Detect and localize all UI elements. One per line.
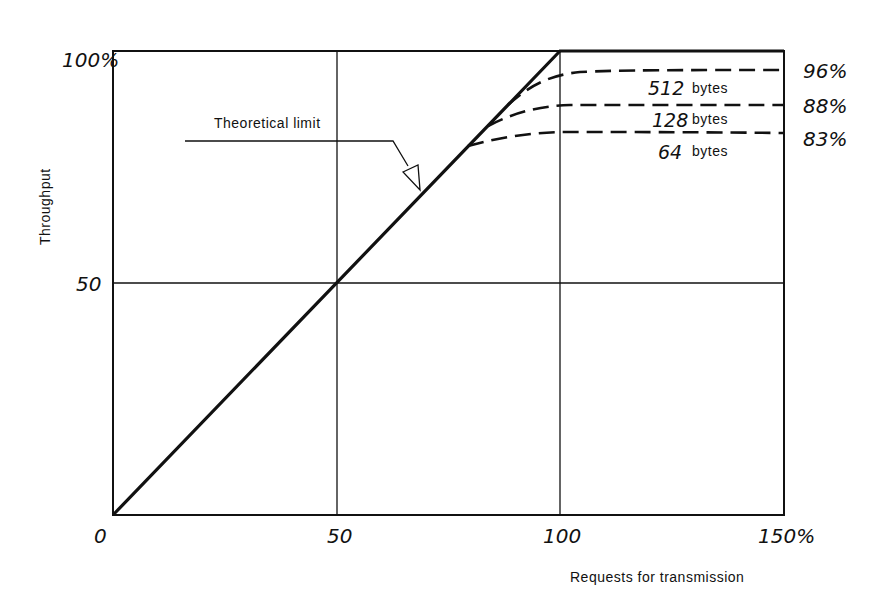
y-tick-50: 50 [76, 272, 101, 296]
series-512-bytes [508, 70, 784, 105]
x-axis-label: Requests for transmission [570, 569, 744, 585]
annotation-theoretical-limit: Theoretical limit [214, 115, 321, 131]
series-64-bytes [468, 132, 784, 146]
x-tick-150: 150% [758, 524, 815, 548]
x-tick-100: 100 [543, 524, 581, 548]
label-512-num: 512 [648, 77, 684, 99]
label-64-bytes: bytes [692, 143, 728, 159]
annotation-arrow-icon [403, 165, 420, 190]
y-tick-100: 100% [62, 48, 119, 72]
label-512-bytes: bytes [692, 80, 728, 96]
label-128-bytes: bytes [692, 111, 728, 127]
label-64-num: 64 [658, 141, 682, 163]
y-axis-label: Throughput [37, 168, 53, 245]
throughput-chart: Theoretical limit 100% 50 0 50 100 150% … [0, 0, 879, 611]
annotation-leader [185, 141, 408, 166]
x-tick-50: 50 [327, 524, 352, 548]
x-tick-0: 0 [94, 524, 107, 548]
end-label-88: 88% [803, 94, 847, 118]
series-128-bytes [488, 105, 784, 126]
end-label-83: 83% [803, 127, 847, 151]
end-label-96: 96% [803, 59, 847, 83]
label-128-num: 128 [652, 109, 688, 131]
